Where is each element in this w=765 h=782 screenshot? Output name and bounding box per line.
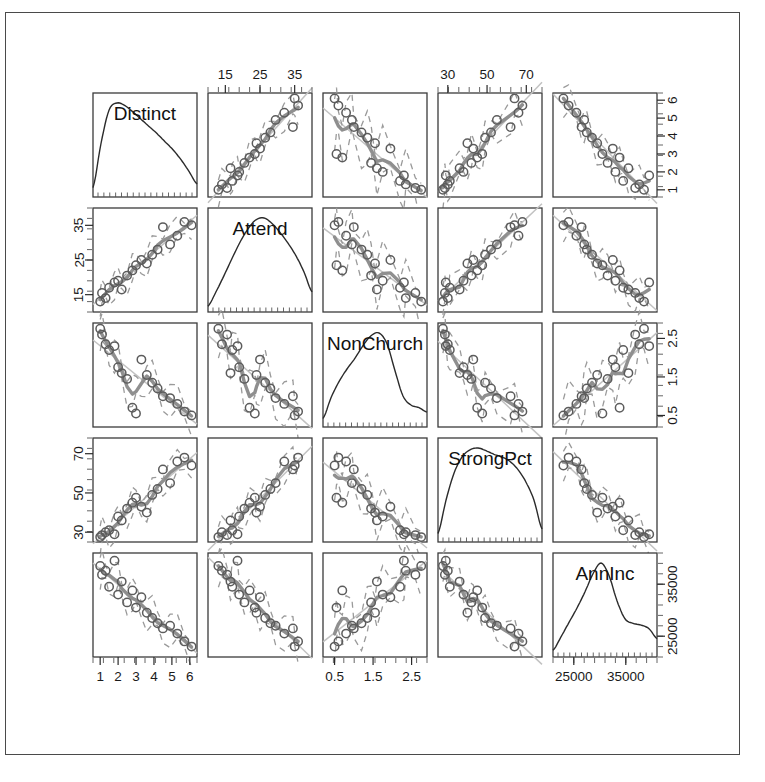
axis-tick-label: 35000 [666,565,681,603]
diagonal-panel-strongpct[interactable]: StrongPct [438,438,542,542]
scatter-panel-distinct-vs-anninc[interactable] [93,550,197,668]
variable-label: StrongPct [448,448,532,469]
axis-tick-label: 2 [114,669,122,684]
axis-tick-label: 5 [168,669,176,684]
axis-tick-label: 30 [440,67,455,82]
variable-label: AnnInc [575,563,634,584]
scatter-panel-distinct-vs-nonchurch[interactable] [93,314,197,437]
axis-tick-label: 2.5 [402,669,421,684]
axis-right-anninc: 2500035000 [657,553,681,657]
axis-tick-label: 2 [666,168,681,176]
axis-tick-label: 3 [132,669,140,684]
variable-label: Attend [233,218,288,239]
scatter-panel-anninc-vs-nonchurch[interactable] [553,312,657,446]
axis-tick-label: 1.5 [666,368,681,387]
axis-tick-label: 35000 [607,669,645,684]
axis-tick-label: 50 [72,485,87,500]
axis-tick-label: 3 [666,150,681,158]
scatter-panel-distinct-vs-attend[interactable] [93,208,197,317]
diagonal-panel-nonchurch[interactable]: NonChurch [323,323,427,427]
scatter-panel-attend-vs-distinct[interactable] [208,88,312,207]
axis-tick-label: 4 [666,132,681,140]
diagonal-panel-anninc[interactable]: AnnInc [553,553,657,657]
variable-label: NonChurch [327,333,423,354]
axis-bottom-anninc: 2500035000 [553,657,657,684]
diagonal-panel-distinct[interactable]: Distinct [93,93,197,197]
scatter-panel-anninc-vs-attend[interactable] [553,207,657,312]
axis-tick-label: 70 [72,446,87,461]
axis-tick-label: 50 [480,67,495,82]
axis-tick-label: 35 [287,67,302,82]
axis-right-distinct: 123456 [657,93,681,197]
axis-tick-label: 1 [666,186,681,194]
scatter-panel-strongpct-vs-attend[interactable] [438,204,542,315]
scatter-panel-nonchurch-vs-strongpct[interactable] [323,438,427,562]
diagonal-panel-attend[interactable]: Attend [208,208,312,312]
axis-left-attend: 152535 [72,208,94,312]
scatter-panel-nonchurch-vs-attend[interactable] [323,208,427,332]
axis-tick-label: 15 [218,67,233,82]
axis-tick-label: 35 [72,218,87,233]
axis-bottom-nonchurch: 0.51.52.5 [323,657,427,684]
axis-left-strongpct: 305070 [72,438,94,542]
variable-label: Distinct [114,103,177,124]
axis-right-nonchurch: 0.51.52.5 [657,323,681,427]
axis-tick-label: 5 [666,114,681,122]
axis-tick-label: 4 [150,669,158,684]
figure-page: DistinctAttendNonChurchStrongPctAnnInc15… [0,0,765,782]
axis-tick-label: 2.5 [666,329,681,348]
scatterplot-matrix: DistinctAttendNonChurchStrongPctAnnInc15… [0,0,765,782]
axis-bottom-distinct: 123456 [93,657,197,684]
axis-tick-label: 70 [519,67,534,82]
axis-tick-label: 25 [72,252,87,267]
axis-tick-label: 25 [252,67,267,82]
axis-tick-label: 6 [666,96,681,104]
scatter-panel-nonchurch-vs-distinct[interactable] [323,88,427,224]
axis-tick-label: 1.5 [364,669,383,684]
axis-tick-label: 6 [186,669,194,684]
axis-tick-label: 15 [72,287,87,302]
scatter-panel-attend-vs-strongpct[interactable] [208,438,312,554]
scatter-panel-strongpct-vs-distinct[interactable] [438,82,542,208]
scatter-panel-attend-vs-nonchurch[interactable] [208,309,312,438]
scatter-panel-nonchurch-vs-anninc[interactable] [323,544,427,663]
scatter-panel-anninc-vs-strongpct[interactable] [553,438,657,555]
axis-tick-label: 1 [96,669,104,684]
scatter-panel-strongpct-vs-anninc[interactable] [438,550,542,665]
axis-tick-label: 0.5 [325,669,344,684]
scatter-panel-distinct-vs-strongpct[interactable] [93,438,197,554]
axis-top-attend: 152535 [208,67,312,93]
scatter-panel-attend-vs-anninc[interactable] [208,548,312,663]
axis-tick-label: 30 [72,525,87,540]
scatter-panel-anninc-vs-distinct[interactable] [553,85,657,204]
axis-tick-label: 0.5 [666,406,681,425]
axis-tick-label: 25000 [555,669,593,684]
axis-tick-label: 25000 [666,617,681,655]
axis-top-strongpct: 305070 [438,67,542,93]
scatter-panel-strongpct-vs-nonchurch[interactable] [438,313,542,438]
